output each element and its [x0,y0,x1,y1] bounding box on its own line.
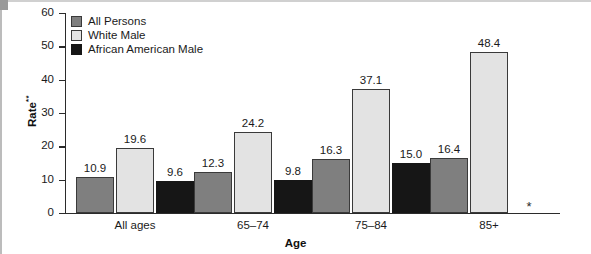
legend-item-label: White Male [88,30,146,42]
bar-value-label: 12.3 [202,157,224,169]
bar [234,132,272,213]
legend-swatch-icon [71,16,82,27]
scan-edge-top [0,0,591,2]
bar [312,159,350,213]
legend-item-label: African American Male [88,44,203,56]
bar-value-label: 19.6 [124,133,146,145]
chart-legend: All PersonsWhite MaleAfrican American Ma… [71,15,203,57]
bar-value-label: 16.3 [320,144,342,156]
y-axis-title-text: Rate [26,102,38,127]
bar [76,177,114,213]
x-axis-category-label: All ages [115,219,156,231]
y-axis-tick [59,180,65,181]
y-axis-tick-label: 0 [24,207,54,219]
scan-edge-left [0,0,2,254]
suppressed-value-asterisk: * [526,200,531,213]
y-axis-tick [59,146,65,147]
legend-swatch-icon [71,30,82,41]
scan-edge-corner [0,0,8,10]
y-axis-line [65,13,66,213]
bar [156,181,194,213]
bar [274,180,312,213]
y-axis-tick [59,13,65,14]
y-axis-title-superscript: ** [24,95,33,102]
bar [352,89,390,213]
bar-value-label: 15.0 [400,148,422,160]
x-axis-line [65,213,560,214]
bar-value-label: 24.2 [242,117,264,129]
bar-value-label: 16.4 [438,143,460,155]
legend-swatch-icon [71,44,82,55]
y-axis-tick-label: 10 [24,174,54,186]
x-axis-category-label: 75–84 [355,219,387,231]
y-axis-tick [59,80,65,81]
bar-value-label: 9.6 [167,166,183,178]
bar [430,158,468,213]
bar-value-label: 48.4 [478,37,500,49]
bar [470,52,508,213]
y-axis-tick [59,113,65,114]
x-axis-title: Age [0,237,591,249]
bar-chart-figure: 0102030405060 Rate** All ages65–7475–848… [0,0,591,254]
bar-value-label: 37.1 [360,74,382,86]
y-axis-tick-label: 60 [24,7,54,19]
bar [392,163,430,213]
bar-value-label: 10.9 [84,162,106,174]
bar-value-label: 9.8 [285,165,301,177]
x-axis-category-label: 85+ [479,219,499,231]
legend-item: White Male [71,29,203,43]
bar [194,172,232,213]
legend-item-label: All Persons [88,16,146,28]
x-axis-category-label: 65–74 [237,219,269,231]
bar [116,148,154,213]
y-axis-tick-label: 50 [24,41,54,53]
legend-item: All Persons [71,15,203,29]
legend-item: African American Male [71,43,203,57]
y-axis-tick [59,46,65,47]
y-axis-title: Rate** [24,76,38,146]
